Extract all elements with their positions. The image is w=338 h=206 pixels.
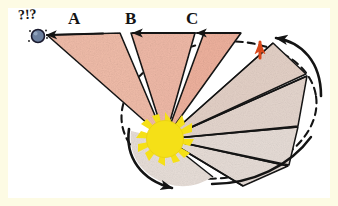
figure-frame: ?!? A B C [0,0,338,206]
observer-question-label: ?!? [18,8,37,23]
sector-c-label: C [186,10,198,27]
sector-a-label: A [68,10,80,27]
diagram-artwork [0,0,338,206]
observer-planet [28,30,48,43]
sector-a-arrow [47,34,103,36]
sector-b-label: B [125,10,136,27]
